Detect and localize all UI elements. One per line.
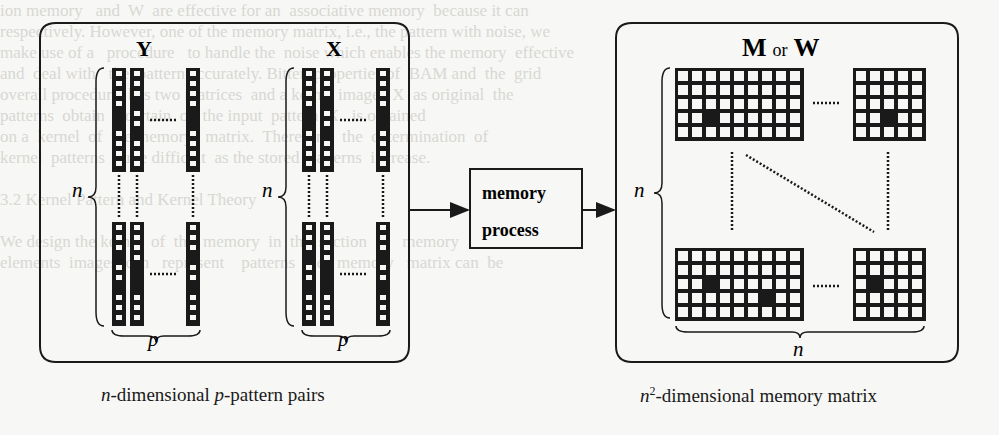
pattern-cell [324, 91, 330, 96]
matrix-cell [912, 279, 922, 289]
pattern-cell [190, 295, 196, 300]
brace-label-n-bottom: n [793, 337, 804, 361]
vertical-brace [88, 68, 104, 326]
pattern-cell [324, 111, 330, 116]
matrix-cell [720, 113, 730, 123]
matrix-cell [748, 127, 758, 137]
pattern-cell [324, 315, 330, 320]
pattern-cell [116, 131, 122, 136]
pattern-cell [190, 315, 196, 320]
matrix-cell [706, 265, 716, 275]
pattern-cell [190, 131, 196, 136]
pattern-cell [134, 255, 140, 260]
caption-var-n: n [101, 384, 111, 405]
matrix-cell [748, 71, 758, 81]
pattern-cell [324, 121, 330, 126]
matrix-cell [720, 293, 730, 303]
matrix-cell [776, 251, 786, 261]
matrix-cell [776, 99, 786, 109]
matrix-cell [884, 279, 894, 289]
pattern-cell [134, 305, 140, 310]
matrix-cell [734, 71, 744, 81]
pattern-cell [324, 235, 330, 240]
pattern-cell [380, 81, 386, 86]
matrix-cell [884, 99, 894, 109]
pattern-cell [190, 305, 196, 310]
matrix-cell [898, 113, 908, 123]
pattern-cell [324, 151, 330, 156]
matrix-cell [856, 127, 866, 137]
memory-matrix-top-right [853, 68, 926, 141]
pattern-cell [380, 101, 386, 106]
matrix-cell [790, 127, 800, 137]
pattern-cell [306, 151, 312, 156]
matrix-cell [776, 279, 786, 289]
matrix-cell [912, 251, 922, 261]
brace-label-n: n [634, 178, 645, 202]
pattern-cell [134, 245, 140, 250]
matrix-cell [762, 71, 772, 81]
memory-matrix-bottom-left [675, 248, 804, 321]
matrix-cell [912, 307, 922, 317]
matrix-cell [734, 99, 744, 109]
pattern-cell [306, 131, 312, 136]
pattern-cell [116, 245, 122, 250]
matrix-cell [870, 293, 880, 303]
matrix-cell [762, 279, 772, 289]
matrix-cell [870, 113, 880, 123]
matrix-cell [748, 265, 758, 275]
pattern-cell [380, 245, 386, 250]
matrix-cell [790, 265, 800, 275]
matrix-cell [734, 279, 744, 289]
matrix-cell [776, 85, 786, 95]
matrix-cell [762, 251, 772, 261]
group-label: Y [136, 36, 152, 61]
pattern-cell [134, 81, 140, 86]
pattern-cell [190, 71, 196, 76]
pattern-cell [134, 91, 140, 96]
pattern-cell [324, 71, 330, 76]
pattern-cell [380, 141, 386, 146]
pattern-cell [306, 295, 312, 300]
pattern-cell [324, 81, 330, 86]
matrix-cell [790, 307, 800, 317]
caption-text: -dimensional memory matrix [656, 385, 878, 406]
matrix-cell [912, 113, 922, 123]
matrix-cell [856, 113, 866, 123]
pattern-cell [116, 141, 122, 146]
matrix-cell [692, 293, 702, 303]
diagonal-ellipsis [746, 155, 874, 232]
pattern-cell [324, 295, 330, 300]
pattern-cell [380, 161, 386, 166]
pattern-cell [190, 235, 196, 240]
matrix-cell [692, 99, 702, 109]
matrix-cell [706, 85, 716, 95]
matrix-cell [720, 127, 730, 137]
pattern-cell [380, 305, 386, 310]
pattern-cell [380, 71, 386, 76]
pattern-cell [306, 71, 312, 76]
pattern-cell [116, 295, 122, 300]
matrix-cell [748, 307, 758, 317]
pattern-cell [190, 275, 196, 280]
matrix-cell [734, 251, 744, 261]
matrix-cell [912, 293, 922, 303]
pattern-cell [134, 225, 140, 230]
pattern-cell [306, 315, 312, 320]
pattern-cell [306, 265, 312, 270]
matrix-cell [776, 113, 786, 123]
matrix-cell [706, 127, 716, 137]
matrix-cell [706, 251, 716, 261]
matrix-cell [776, 293, 786, 303]
matrix-cell [870, 251, 880, 261]
matrix-cell [898, 251, 908, 261]
pattern-cell [380, 315, 386, 320]
pattern-cell [134, 141, 140, 146]
pattern-cell [116, 225, 122, 230]
pattern-cell [190, 101, 196, 106]
matrix-cell [734, 85, 744, 95]
matrix-cell [692, 307, 702, 317]
process-label-line2: process [482, 220, 539, 240]
matrix-cell [720, 251, 730, 261]
brace-label-p: p [336, 327, 349, 351]
